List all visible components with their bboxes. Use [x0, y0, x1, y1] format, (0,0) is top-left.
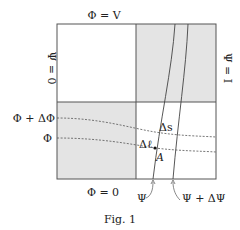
conformal-map-diagram: Φ = V Φ = 0 Ψ = 0 Ψ = I Φ + ΔΦ Φ Δℓ Δs A…	[0, 0, 240, 230]
label-top-phi-v: Φ = V	[87, 9, 121, 22]
label-psi-plus-dpsi: Ψ + ΔΨ	[182, 192, 226, 205]
label-left-psi-0: Ψ = 0	[45, 52, 58, 85]
point-a-dot	[153, 146, 156, 149]
label-delta-s: Δs	[159, 121, 173, 134]
label-phi: Φ	[43, 132, 52, 145]
label-bottom-phi-0: Φ = 0	[87, 186, 119, 199]
shaded-quadrant-bottom-left	[57, 102, 136, 179]
label-delta-l: Δℓ	[139, 138, 152, 151]
label-right-psi-i: Ψ = I	[221, 53, 234, 83]
shaded-quadrant-top-right	[136, 24, 216, 102]
label-phi-plus-dphi: Φ + ΔΦ	[13, 112, 55, 125]
figure-caption: Fig. 1	[104, 213, 136, 226]
psi-pointer-arrow	[146, 182, 153, 198]
label-psi: Ψ	[137, 192, 147, 205]
label-point-a: A	[155, 151, 164, 164]
psi-plus-dpsi-pointer-arrow	[173, 182, 180, 200]
